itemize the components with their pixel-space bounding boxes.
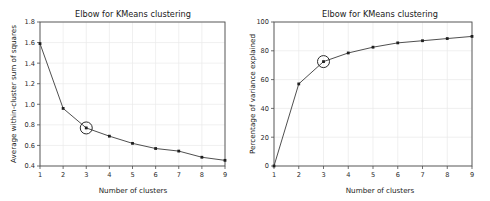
figure-canvas: 1234567890.40.60.81.01.21.41.61.8 Elbow … — [0, 0, 490, 201]
x-tick-label: 7 — [177, 171, 181, 179]
data-point-marker — [85, 127, 88, 130]
tick-labels-right: 123456789020406080100 — [256, 18, 474, 179]
data-point-marker — [200, 156, 203, 159]
data-point-marker — [177, 150, 180, 153]
y-tick-label: 1.6 — [25, 39, 36, 47]
y-tick-label: 1.8 — [25, 18, 36, 26]
data-point-marker — [273, 165, 276, 168]
y-tick-label: 0.4 — [25, 162, 36, 170]
data-point-marker — [396, 41, 399, 44]
chart-title-left: Elbow for KMeans clustering — [75, 9, 191, 19]
chart-title-right: Elbow for KMeans clustering — [322, 9, 438, 19]
y-axis-label-left: Average within-cluster sum of squares — [9, 25, 18, 163]
data-point-marker — [224, 159, 227, 162]
data-point-marker — [108, 135, 111, 138]
data-point-marker — [446, 37, 449, 40]
x-tick-label: 2 — [61, 171, 65, 179]
x-tick-label: 6 — [396, 171, 400, 179]
elbow-wcss-chart: 1234567890.40.60.81.01.21.41.61.8 Elbow … — [0, 0, 245, 201]
x-axis-label-right: Number of clusters — [346, 186, 415, 195]
x-tick-label: 6 — [154, 171, 158, 179]
y-tick-label: 1.4 — [25, 60, 36, 68]
x-tick-label: 3 — [84, 171, 88, 179]
data-point-marker — [131, 142, 134, 145]
x-tick-label: 8 — [445, 171, 449, 179]
grid-lines-right — [274, 22, 472, 166]
y-tick-label: 100 — [256, 18, 269, 26]
y-tick-label: 60 — [261, 76, 269, 84]
x-tick-label: 1 — [272, 171, 276, 179]
data-point-marker — [322, 60, 325, 63]
y-tick-label: 1.0 — [25, 101, 36, 109]
x-tick-label: 5 — [371, 171, 375, 179]
x-tick-label: 8 — [200, 171, 204, 179]
chart-panel-right: 123456789020406080100 Elbow for KMeans c… — [245, 0, 490, 201]
y-tick-label: 0.8 — [25, 121, 36, 129]
data-point-marker — [154, 147, 157, 150]
y-tick-label: 80 — [261, 47, 269, 55]
data-point-marker — [471, 35, 474, 38]
y-tick-label: 0.6 — [25, 142, 36, 150]
tick-marks-right — [271, 22, 472, 169]
data-point-marker — [372, 46, 375, 49]
y-tick-label: 40 — [261, 105, 269, 113]
x-tick-label: 5 — [130, 171, 134, 179]
elbow-variance-chart: 123456789020406080100 Elbow for KMeans c… — [245, 0, 490, 201]
x-tick-label: 9 — [470, 171, 474, 179]
x-tick-label: 4 — [107, 171, 111, 179]
data-point-marker — [347, 52, 350, 55]
x-tick-label: 2 — [297, 171, 301, 179]
data-point-marker — [297, 83, 300, 86]
x-tick-label: 7 — [420, 171, 424, 179]
y-axis-label-right: Percentage of variance explained — [248, 34, 257, 154]
y-tick-label: 20 — [261, 134, 269, 142]
data-point-marker — [62, 107, 65, 110]
y-tick-label: 0 — [265, 162, 269, 170]
x-tick-label: 4 — [346, 171, 350, 179]
x-axis-label-left: Number of clusters — [99, 186, 168, 195]
chart-panel-left: 1234567890.40.60.81.01.21.41.61.8 Elbow … — [0, 0, 245, 201]
x-tick-label: 9 — [223, 171, 227, 179]
x-tick-label: 1 — [38, 171, 42, 179]
y-tick-label: 1.2 — [25, 80, 36, 88]
data-point-marker — [421, 39, 424, 42]
data-point-marker — [39, 42, 42, 45]
x-tick-label: 3 — [321, 171, 325, 179]
tick-marks-left — [37, 22, 225, 169]
